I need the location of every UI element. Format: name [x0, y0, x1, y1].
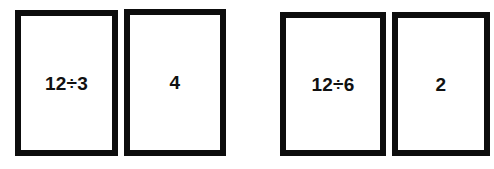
flashcard-answer-2-label: 2: [436, 75, 447, 94]
flashcard-answer-1-label: 4: [170, 73, 181, 92]
flashcard-problem-2[interactable]: 12÷6: [280, 12, 386, 156]
flashcard-problem-1-label: 12÷3: [45, 74, 88, 93]
flashcard-stage: 12÷3 4 12÷6 2: [0, 0, 494, 169]
flashcard-problem-1[interactable]: 12÷3: [15, 10, 118, 156]
flashcard-problem-2-label: 12÷6: [312, 75, 355, 94]
flashcard-answer-2[interactable]: 2: [392, 12, 490, 156]
flashcard-answer-1[interactable]: 4: [124, 9, 226, 156]
